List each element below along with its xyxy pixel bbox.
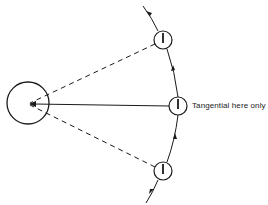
diagram-canvas: Tangential here only xyxy=(0,0,268,205)
solid-line-middle xyxy=(34,104,169,106)
orbit-arc-top-entry xyxy=(143,6,158,31)
orbit-arrow-up-icon xyxy=(171,65,175,71)
central-body-circle xyxy=(7,82,49,124)
satellite-middle xyxy=(169,97,187,115)
dashed-line-top xyxy=(30,44,155,103)
dashed-line-bottom xyxy=(30,105,155,167)
orbit-arrow-up-lower-icon xyxy=(173,133,177,139)
tangential-annotation: Tangential here only xyxy=(192,101,266,110)
orbit-arc-top-middle xyxy=(167,49,178,97)
orbit-arc-bottom-entry xyxy=(146,180,158,203)
satellite-bottom xyxy=(154,162,172,180)
satellite-top xyxy=(154,31,172,49)
